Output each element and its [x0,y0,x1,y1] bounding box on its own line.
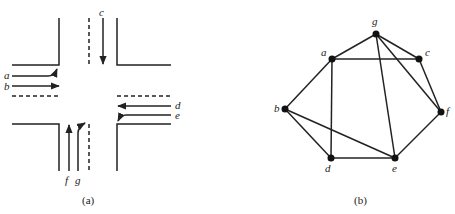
label-g: g [75,174,81,186]
edge-g-c [376,34,419,59]
curb-bottom-right [117,124,171,171]
intersection-diagram [12,18,171,171]
node-b [282,106,289,113]
label-c: c [99,6,104,18]
compatibility-graph [285,34,441,158]
node-a [329,56,336,63]
graph-nodes [282,31,445,162]
edge-e-f [395,112,441,158]
node-label-g: g [372,15,378,27]
node-label-e: e [392,162,397,174]
node-label-c: c [425,46,430,58]
node-e [392,155,399,162]
edge-g-a [332,34,376,59]
edge-b-e [285,109,395,158]
edge-c-f [419,59,441,112]
label-b: b [4,80,10,92]
stream-g-arrow [78,123,85,171]
label-f: f [65,174,70,186]
node-label-b: b [274,102,280,114]
stream-a-arrow [12,69,57,76]
node-d [328,155,335,162]
label-e: e [175,109,180,121]
node-c [416,56,423,63]
edge-a-d [331,59,332,158]
node-g [373,31,380,38]
curb-bottom-left [12,124,59,171]
node-label-a: a [321,46,327,58]
figure: a b c d e f g (a) g a c b f d e (b) [0,0,455,214]
node-label-d: d [325,162,331,174]
node-f [438,109,445,116]
curb-top-left [12,18,59,65]
edge-b-d [285,109,331,158]
caption-a: (a) [82,194,95,207]
stream-e-arrow [118,115,171,121]
edge-a-b [285,59,332,109]
node-label-f: f [446,105,451,117]
curb-top-right [117,18,171,65]
caption-b: (b) [354,194,367,207]
